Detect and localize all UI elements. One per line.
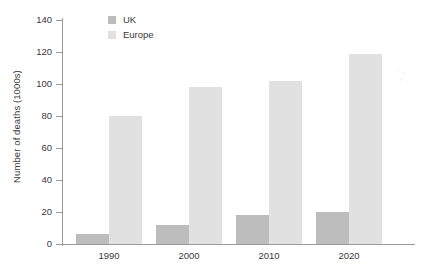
y-axis-tick-label: 20 [2,207,52,217]
bar-europe-2010 [269,81,302,244]
y-axis-tick [56,116,62,117]
bar-europe-2020 [349,54,382,244]
chart-legend: UKEurope [108,14,154,40]
bar-uk-1990 [76,234,109,244]
y-axis-tick [56,84,62,85]
y-axis-tick-label: 40 [2,175,52,185]
y-axis-tick-label: 140 [2,15,52,25]
y-axis-tick [56,212,62,213]
x-axis-tick-label: 2000 [159,250,219,261]
y-axis-tick [56,148,62,149]
scan-artifact-icon [388,62,418,92]
bar-uk-2020 [316,212,349,244]
legend-item-label: UK [123,14,136,25]
bar-chart: Number of deaths (1000s) 020406080100120… [0,0,433,275]
y-axis-tick-label: 60 [2,143,52,153]
y-axis-tick-label: 120 [2,47,52,57]
bar-europe-1990 [109,116,142,244]
y-axis-tick [56,244,62,245]
x-axis-tick-label: 2010 [239,250,299,261]
legend-item-europe: Europe [108,29,154,40]
y-axis-line [62,18,63,246]
y-axis-tick [56,52,62,53]
x-axis-tick-label: 1990 [79,250,139,261]
legend-swatch-icon [108,16,116,24]
x-axis-line [62,244,415,245]
x-axis-tick-label: 2020 [319,250,379,261]
legend-item-label: Europe [123,29,154,40]
legend-swatch-icon [108,31,116,39]
y-axis-tick-label: 80 [2,111,52,121]
bar-europe-2000 [189,87,222,244]
bar-uk-2010 [236,215,269,244]
bar-uk-2000 [156,225,189,244]
y-axis-tick-label: 0 [2,239,52,249]
y-axis-tick [56,20,62,21]
y-axis-tick-label: 100 [2,79,52,89]
y-axis-tick [56,180,62,181]
legend-item-uk: UK [108,14,154,25]
